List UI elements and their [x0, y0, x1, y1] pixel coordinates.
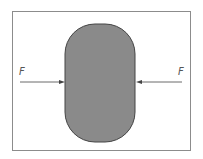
- left-force-label: F: [19, 66, 25, 77]
- diagram-canvas: [0, 0, 203, 159]
- right-force-arrow-icon: [136, 80, 182, 84]
- right-force-label: F: [178, 66, 184, 77]
- compressed-body: [65, 24, 135, 142]
- left-force-arrow-icon: [20, 80, 65, 84]
